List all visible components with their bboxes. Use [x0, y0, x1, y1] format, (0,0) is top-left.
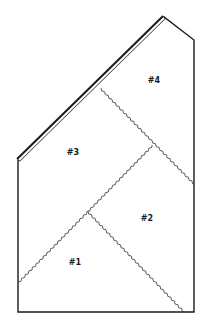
block-outline	[18, 17, 194, 312]
quilt-piece-diagram: #4#3#2#1	[0, 0, 208, 327]
piece-4-label: #4	[148, 76, 161, 85]
piece-3-label: #3	[67, 148, 79, 157]
piece-2-label: #2	[141, 214, 153, 223]
piece-1-label: #1	[69, 258, 82, 267]
